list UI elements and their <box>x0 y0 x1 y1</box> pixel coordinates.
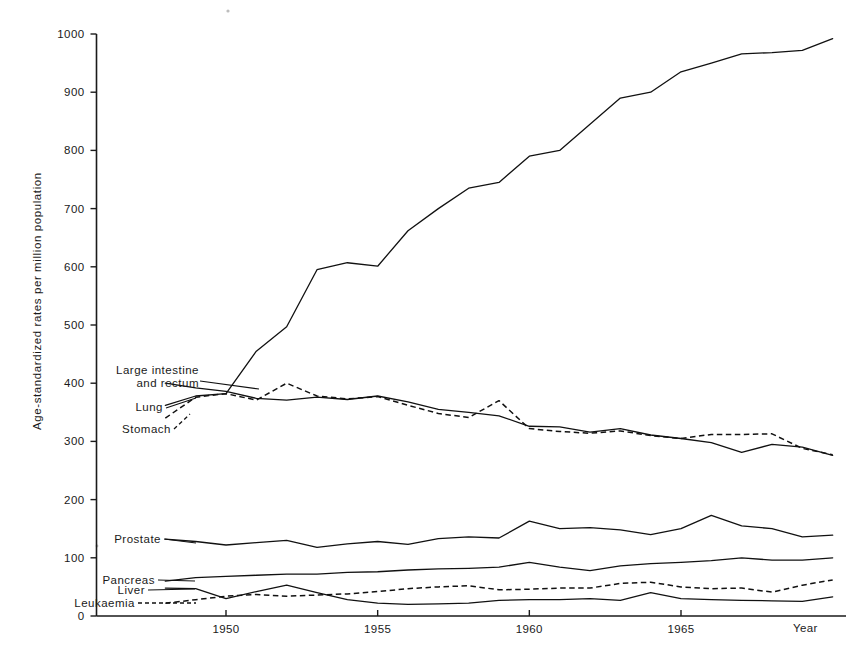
y-tick-label: 800 <box>64 144 84 156</box>
lung-label: Lung <box>135 401 163 413</box>
large-intestine-and-rectum-label-line2: and rectum <box>136 377 199 389</box>
x-tick-label: 1965 <box>667 623 694 635</box>
chart-figure: 01002003004005006007008009001000 1950195… <box>0 0 857 661</box>
chart-background <box>0 0 857 661</box>
stomach-label: Stomach <box>122 423 171 435</box>
leukaemia-label: Leukaemia <box>74 597 135 609</box>
y-tick-label: 600 <box>64 261 84 273</box>
prostate-label: Prostate <box>114 533 161 545</box>
y-tick-label: 400 <box>64 377 84 389</box>
x-tick-label: 1950 <box>212 623 239 635</box>
liver-label: Liver <box>118 584 145 596</box>
x-tick-label: 1955 <box>364 623 391 635</box>
y-tick-label: 0 <box>78 610 85 622</box>
y-tick-label: 700 <box>64 203 84 215</box>
y-tick-label: 500 <box>64 319 84 331</box>
y-tick-label: 900 <box>64 86 84 98</box>
line-chart-svg: 01002003004005006007008009001000 1950195… <box>0 0 857 661</box>
large-intestine-and-rectum-label-line1: Large intestine <box>116 364 199 376</box>
scan-speck <box>226 9 229 12</box>
y-tick-label: 300 <box>64 435 84 447</box>
y-tick-label: 100 <box>64 552 84 564</box>
y-tick-label: 1000 <box>57 28 84 40</box>
x-axis-title: Year <box>793 622 818 634</box>
x-tick-label: 1960 <box>516 623 543 635</box>
y-axis-title: Age-standardized rates per million popul… <box>31 172 43 430</box>
y-tick-label: 200 <box>64 494 84 506</box>
